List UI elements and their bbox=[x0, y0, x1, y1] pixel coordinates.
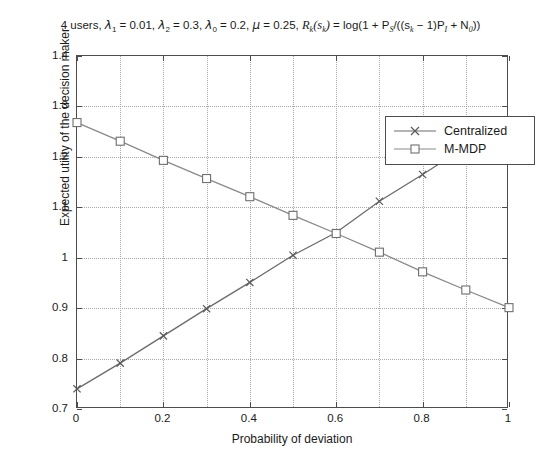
y-tick-label: 0.7 bbox=[28, 402, 68, 414]
title-formula-mid: /((s bbox=[393, 19, 410, 31]
y-axis-title: Expected utility of the decision maker bbox=[58, 0, 72, 304]
y-tick-mark bbox=[502, 409, 507, 410]
data-point-marker bbox=[505, 304, 513, 312]
data-point-marker bbox=[246, 193, 254, 201]
lambda1-symbol: λ1 bbox=[105, 18, 117, 32]
data-point-marker bbox=[73, 385, 80, 392]
chart-title: 4 users, λ1 = 0.01, λ2 = 0.3, λ0 = 0.2, … bbox=[0, 18, 541, 37]
x-tick-label: 1 bbox=[505, 412, 511, 424]
x-axis-title: Probability of deviation bbox=[76, 432, 508, 446]
data-point-marker bbox=[419, 268, 427, 276]
title-lambda1-value: = 0.01, bbox=[120, 19, 156, 31]
y-tick-label: 0.8 bbox=[28, 352, 68, 364]
title-formula-close: )) bbox=[473, 19, 481, 31]
x-tick-label: 0 bbox=[73, 412, 79, 424]
data-point-marker bbox=[419, 171, 426, 178]
data-point-marker bbox=[159, 156, 167, 164]
plot-area: Centralized M-MDP bbox=[76, 55, 508, 408]
legend-marker-square-icon bbox=[392, 141, 438, 157]
lambda2-symbol: λ2 bbox=[158, 18, 170, 32]
data-point-marker bbox=[160, 332, 167, 339]
x-tick-label: 0.8 bbox=[414, 412, 430, 424]
legend: Centralized M-MDP bbox=[385, 116, 535, 165]
title-formula-head: = log(1 + P bbox=[333, 19, 389, 31]
title-lambda0-value: = 0.2, bbox=[220, 19, 249, 31]
title-formula-tail: + N bbox=[450, 19, 468, 31]
x-tick-label: 0.4 bbox=[241, 412, 257, 424]
x-tick-label: 0.6 bbox=[327, 412, 343, 424]
data-point-marker bbox=[289, 211, 297, 219]
data-point-marker bbox=[73, 119, 81, 127]
legend-label-centralized: Centralized bbox=[444, 124, 507, 138]
legend-marker-x-icon bbox=[392, 123, 438, 139]
data-point-marker bbox=[117, 360, 124, 367]
legend-item-centralized: Centralized bbox=[392, 122, 528, 140]
x-tick-label: 0.2 bbox=[154, 412, 170, 424]
title-formula-end: − 1)P bbox=[417, 19, 445, 31]
data-point-marker bbox=[375, 248, 383, 256]
y-tick-mark bbox=[77, 409, 82, 410]
x-tick-mark bbox=[509, 402, 510, 407]
sk-symbol: k bbox=[410, 18, 414, 32]
data-point-marker bbox=[246, 279, 253, 286]
lambda0-symbol: λ0 bbox=[205, 18, 217, 32]
title-lambda2-value: = 0.3, bbox=[173, 19, 202, 31]
x-tick-mark bbox=[509, 56, 510, 61]
data-point-marker bbox=[289, 252, 296, 259]
pi-symbol: I bbox=[445, 18, 448, 32]
data-point-marker bbox=[116, 137, 124, 145]
legend-item-mmdp: M-MDP bbox=[392, 140, 528, 158]
data-point-marker bbox=[462, 286, 470, 294]
data-point-marker bbox=[203, 305, 210, 312]
data-point-marker bbox=[376, 198, 383, 205]
legend-label-mmdp: M-MDP bbox=[444, 142, 486, 156]
data-point-marker bbox=[203, 175, 211, 183]
data-point-marker bbox=[332, 230, 340, 238]
series-layer bbox=[77, 56, 509, 409]
mu-symbol: μ bbox=[252, 18, 260, 32]
rate-function-symbol: Rk(sk) bbox=[302, 18, 330, 32]
figure-container: 4 users, λ1 = 0.01, λ2 = 0.3, λ0 = 0.2, … bbox=[0, 0, 541, 462]
title-mu-value: = 0.25, bbox=[263, 19, 299, 31]
